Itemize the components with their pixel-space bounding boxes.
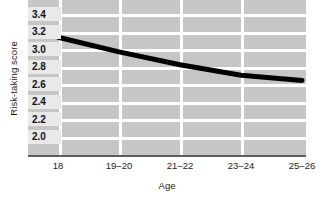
- x-tick-label: 25–26: [289, 160, 315, 171]
- y-axis-title-text: Risk-taking score: [8, 41, 19, 116]
- x-axis-line: [28, 155, 306, 157]
- risk-taking-score-polyline: [58, 37, 302, 80]
- risk-taking-score-line-chart: Risk-taking score 3.4 3.2 3.0 2.8 2.6 2.…: [0, 0, 324, 198]
- y-axis-title: Risk-taking score: [0, 0, 26, 156]
- x-tick-label: 21–22: [167, 160, 193, 171]
- y-tick-label: 2.2: [28, 112, 61, 126]
- y-tick-label: 3.2: [28, 25, 61, 39]
- y-tick-label: 2.8: [28, 60, 61, 74]
- y-tick-label: 2.4: [28, 95, 61, 109]
- x-tick-label: 19–20: [106, 160, 132, 171]
- data-line-series: [28, 0, 306, 155]
- y-tick-label: 2.0: [28, 130, 61, 144]
- y-tick-label: 3.0: [28, 42, 61, 56]
- x-tick-label: 23–24: [228, 160, 254, 171]
- y-axis-ticks: 3.4 3.2 3.0 2.8 2.6 2.4 2.2 2.0: [28, 0, 61, 155]
- y-tick-label: 2.6: [28, 77, 61, 91]
- x-tick-label: 18: [53, 160, 64, 171]
- x-axis-title: Age: [28, 180, 306, 191]
- x-axis-ticks: 18 19–20 21–22 23–24 25–26: [0, 160, 324, 176]
- y-tick-label: 3.4: [28, 7, 61, 21]
